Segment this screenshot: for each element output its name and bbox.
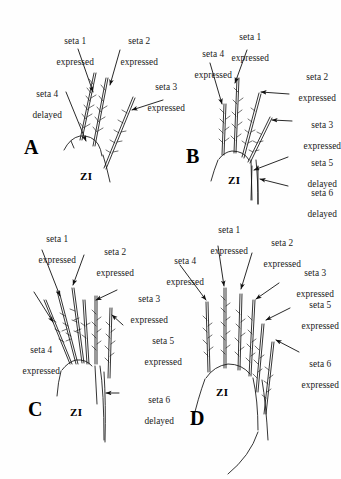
label-b-seta6: seta 6 delayed [291,178,339,229]
panel-a-zi-label: ZI [80,170,92,182]
label-c-seta3-line2: expressed [130,315,168,325]
label-c-seta5-line1: seta 5 [152,336,174,346]
label-b-seta1-line1: seta 1 [239,32,261,42]
label-a-seta3-line2: expressed [147,103,185,113]
label-b-seta2-line2: expressed [298,93,336,103]
label-d-seta3-line1: seta 3 [304,268,326,278]
label-c-seta1-line2: expressed [38,255,76,265]
label-d-seta2-line1: seta 2 [271,238,293,248]
label-d-seta4: seta 4 expressed [146,246,210,297]
label-d-seta4-line1: seta 4 [174,256,196,266]
label-a-seta1-line1: seta 1 [64,36,86,46]
panel-c-zi-label: ZI [70,406,82,418]
panel-letter-d: D [190,407,204,430]
label-a-seta4-line2: delayed [32,110,62,120]
label-b-seta6-line2: delayed [307,209,337,219]
label-c-seta1-line1: seta 1 [46,234,68,244]
label-c-seta4: seta 4 expressed [0,335,68,386]
label-c-seta2-line1: seta 2 [104,247,126,257]
label-c-seta4-line1: seta 4 [30,345,52,355]
label-d-seta6-line1: seta 6 [309,359,331,369]
label-d-seta5-line2: expressed [301,321,339,331]
label-a-seta4-line1: seta 4 [36,89,58,99]
label-d-seta1-line1: seta 1 [218,225,240,235]
label-b-seta4-line2: expressed [194,70,232,80]
label-c-seta2: seta 2 expressed [76,237,140,288]
label-c-seta6: seta 6 delayed [124,385,180,436]
label-c-seta6-line2: delayed [144,416,174,426]
label-b-seta3-line1: seta 3 [311,120,333,130]
label-a-seta4: seta 4 delayed [8,79,72,130]
label-a-seta1: seta 1 expressed [36,26,100,77]
panel-letter-a: A [24,136,38,159]
label-c-seta6-line1: seta 6 [148,395,170,405]
label-d-seta5-line1: seta 5 [309,300,331,310]
label-b-seta2-line1: seta 2 [306,72,328,82]
label-c-seta5: seta 5 expressed [124,326,188,377]
panel-b-zi-label: ZI [228,174,240,186]
label-b-seta5-line1: seta 5 [311,158,333,168]
label-b-seta2: seta 2 expressed [280,62,340,113]
panel-d-zi-label: ZI [216,386,228,398]
label-d-seta5: seta 5 expressed [286,290,340,341]
label-c-seta4-line2: expressed [22,366,60,376]
label-d-seta6-line2: expressed [301,380,339,390]
label-c-seta1: seta 1 expressed [18,224,82,275]
label-a-seta2-line1: seta 2 [128,36,150,46]
label-b-seta4: seta 4 expressed [174,39,238,90]
panel-letter-b: B [186,145,199,168]
label-d-seta4-line2: expressed [166,277,204,287]
label-a-seta2-line2: expressed [120,57,158,67]
label-c-seta5-line2: expressed [144,357,182,367]
panel-letter-c: C [28,398,42,421]
label-a-seta1-line2: expressed [56,57,94,67]
label-a-seta2: seta 2 expressed [100,26,164,77]
label-b-seta4-line1: seta 4 [202,49,224,59]
label-c-seta2-line2: expressed [96,268,134,278]
label-b-seta6-line1: seta 6 [311,188,333,198]
label-d-seta6: seta 6 expressed [286,349,340,400]
